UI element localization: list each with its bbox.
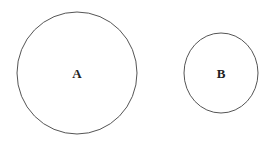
diagram-canvas: A B: [0, 0, 271, 141]
circle-a-label: A: [72, 66, 82, 81]
circle-b-label: B: [217, 66, 226, 81]
